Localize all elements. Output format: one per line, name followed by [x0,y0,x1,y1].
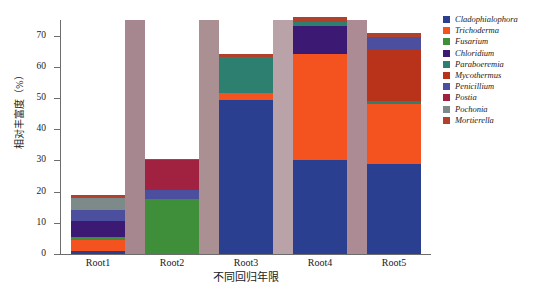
bar-segment[interactable] [367,101,421,104]
y-tick-mark [54,36,60,37]
legend-label: Trichoderma [455,26,499,35]
legend-swatch-icon [443,72,450,79]
y-tick-label: 20 [0,187,46,197]
legend-swatch-icon [443,83,450,90]
bar-segment[interactable] [293,17,347,22]
bar-group-root1 [71,20,125,254]
bar-segment[interactable] [293,54,347,160]
bar-segment[interactable] [219,100,273,254]
x-axis-title: 不同回归年限 [61,271,431,284]
legend-label: Postia [455,93,477,102]
y-tick-mark [54,129,60,130]
y-tick-mark [54,160,60,161]
legend-item[interactable]: Mycothermus [443,70,549,81]
bar-group-root4 [293,20,347,254]
bar-segment[interactable] [71,237,125,240]
x-tick-label-root1: Root1 [58,257,138,269]
bar-segment[interactable] [145,199,199,254]
bar-segment[interactable] [71,221,125,237]
y-tick-label: 70 [0,31,46,41]
bar-segment[interactable] [219,93,273,99]
bar-segment[interactable] [293,22,347,27]
legend-item[interactable]: Fusarium [443,36,549,47]
bar-group-root2 [145,20,199,254]
bar-segment[interactable] [71,210,125,221]
y-tick-mark [54,254,60,255]
x-axis-line [60,254,431,255]
legend-label: Mortierella [455,116,494,125]
y-tick-mark [54,67,60,68]
x-tick-label-root2: Root2 [132,257,212,269]
legend-swatch-icon [443,16,450,23]
legend-label: Cladophialophora [455,15,518,24]
plot-area [61,20,431,254]
y-axis-title: 相对丰富度（%） [14,55,25,165]
stacked-bar[interactable] [71,195,125,254]
legend-swatch-icon [443,50,450,57]
legend-swatch-icon [443,27,450,34]
legend: CladophialophoraTrichodermaFusariumChlor… [443,14,549,126]
bar-segment[interactable] [219,54,273,56]
bar-segment[interactable] [293,160,347,254]
bar-segment[interactable] [145,159,199,160]
bar-group-root3 [219,20,273,254]
bar-segment[interactable] [71,195,125,197]
stacked-bar[interactable] [219,54,273,254]
legend-item[interactable]: Postia [443,92,549,103]
bar-segment[interactable] [367,37,421,49]
legend-swatch-icon [443,106,450,113]
bar-segment[interactable] [367,50,421,101]
bar-segment[interactable] [145,160,199,190]
bar-segment[interactable] [367,33,421,38]
stacked-bar[interactable] [145,159,199,254]
stacked-bar[interactable] [367,32,421,254]
y-tick-mark [54,223,60,224]
bar-segment[interactable] [293,26,347,54]
x-tick-label-root5: Root5 [354,257,434,269]
legend-swatch-icon [443,38,450,45]
legend-item[interactable]: Penicillium [443,81,549,92]
flow-ribbon [273,20,293,254]
stacked-bar-chart-figure: 010203040506070 相对丰富度（%） Root1Root2Root3… [0,0,549,293]
stacked-bar[interactable] [293,17,347,254]
legend-swatch-icon [443,61,450,68]
bar-segment[interactable] [71,251,125,254]
legend-item[interactable]: Pochonia [443,104,549,115]
bar-segment[interactable] [367,104,421,163]
flow-ribbon [125,20,145,254]
legend-item[interactable]: Paraboeremia [443,59,549,70]
legend-item[interactable]: Cladophialophora [443,14,549,25]
legend-label: Paraboeremia [455,60,504,69]
legend-label: Pochonia [455,105,488,114]
bar-segment[interactable] [71,198,125,210]
y-tick-mark [54,98,60,99]
legend-item[interactable]: Mortierella [443,115,549,126]
y-tick-mark [54,192,60,193]
bar-group-root5 [367,20,421,254]
flow-ribbon [199,20,219,254]
legend-item[interactable]: Chloridium [443,48,549,59]
legend-label: Chloridium [455,49,494,58]
x-tick-label-root3: Root3 [206,257,286,269]
legend-label: Penicillium [455,82,494,91]
y-tick-label: 0 [0,249,46,259]
bar-segment[interactable] [145,190,199,199]
bar-segment[interactable] [219,57,273,94]
flow-ribbon [347,20,367,254]
legend-swatch-icon [443,117,450,124]
x-tick-label-root4: Root4 [280,257,360,269]
legend-label: Fusarium [455,37,488,46]
legend-label: Mycothermus [455,71,501,80]
bar-segment[interactable] [71,240,125,251]
y-tick-label: 10 [0,218,46,228]
legend-item[interactable]: Trichoderma [443,25,549,36]
legend-swatch-icon [443,94,450,101]
bar-segment[interactable] [367,164,421,254]
